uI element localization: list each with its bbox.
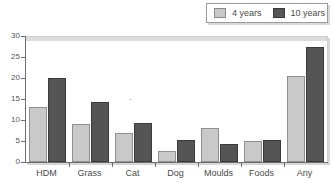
y-tick-10 <box>21 120 25 121</box>
legend-swatch-4-years <box>214 8 226 18</box>
legend-entry-10-years: 10 years <box>273 4 326 22</box>
legend-label-4-years: 4 years <box>232 8 262 18</box>
bar-any-10-years <box>306 47 324 163</box>
x-label-moulds: Moulds <box>197 168 240 178</box>
x-axis-line <box>25 162 328 163</box>
y-tick-label-20: 20 <box>2 74 20 82</box>
y-tick-5 <box>21 141 25 142</box>
x-label-any: Any <box>283 168 326 178</box>
x-tick-5 <box>241 163 242 167</box>
legend-label-10-years: 10 years <box>291 8 326 18</box>
y-tick-label-15: 15 <box>2 95 20 103</box>
legend-swatch-10-years <box>273 8 285 18</box>
x-tick-1 <box>69 163 70 167</box>
y-tick-label-25: 25 <box>2 53 20 61</box>
y-tick-label-5: 5 <box>2 137 20 145</box>
x-label-cat: Cat <box>111 168 154 178</box>
y-tick-30 <box>21 36 25 37</box>
y-tick-label-30: 30 <box>2 32 20 40</box>
y-tick-25 <box>21 57 25 58</box>
x-axis-category-labels: HDMGrassCatDogMouldsFoodsAny <box>25 168 328 182</box>
x-tick-3 <box>155 163 156 167</box>
y-tick-0 <box>21 162 25 163</box>
x-tick-4 <box>198 163 199 167</box>
chart-legend: 4 years 10 years <box>206 3 328 23</box>
y-tick-15 <box>21 99 25 100</box>
x-tick-2 <box>112 163 113 167</box>
bars-layer <box>26 36 327 162</box>
y-tick-20 <box>21 78 25 79</box>
y-tick-label-0: 0 <box>2 158 20 166</box>
x-label-grass: Grass <box>68 168 111 178</box>
bar-chart: 4 years 10 years 302520151050 HDMGrassCa… <box>0 0 335 185</box>
x-label-hdm: HDM <box>25 168 68 178</box>
x-label-foods: Foods <box>240 168 283 178</box>
bar-any-4-years <box>287 76 305 162</box>
bar-group-any <box>26 36 327 162</box>
legend-entry-4-years: 4 years <box>214 4 262 22</box>
x-tick-6 <box>284 163 285 167</box>
x-label-dog: Dog <box>154 168 197 178</box>
y-axis-tick-labels: 302520151050 <box>0 0 20 185</box>
y-tick-label-10: 10 <box>2 116 20 124</box>
